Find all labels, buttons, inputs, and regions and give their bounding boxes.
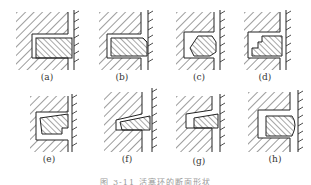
panel-f: (f) [100, 86, 160, 154]
panel-b: (b) [95, 8, 165, 70]
panel-label: (g) [184, 156, 214, 166]
panel-label: (e) [34, 154, 64, 164]
figure-caption: 图 3-11 活塞环的断面形状 [0, 176, 311, 185]
panel-label: (d) [250, 72, 280, 82]
panel-c: (c) [172, 8, 242, 70]
panel-label: (c) [184, 72, 214, 82]
panel-d: (d) [240, 8, 310, 70]
panel-label: (f) [112, 154, 142, 164]
panel-g: (g) [172, 92, 232, 154]
panel-h: (h) [244, 88, 310, 154]
panel-label: (h) [260, 154, 290, 164]
panel-e: (e) [26, 92, 86, 154]
panel-label: (a) [32, 72, 62, 82]
panel-a: (a) [12, 8, 82, 70]
panel-label: (b) [107, 72, 137, 82]
